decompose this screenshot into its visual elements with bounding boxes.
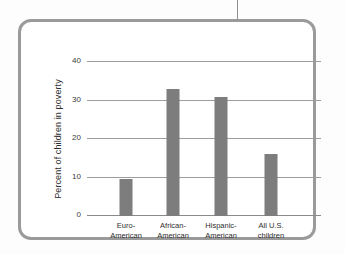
chart-frame: Percent of children in poverty 40 30 20 … [18,19,316,240]
x-tick-label-line: Euro- [110,221,142,231]
y-tick-label-30: 30 [72,96,81,104]
x-tick-label-line: American [110,231,142,241]
gridline-40: 40 [87,61,321,62]
x-tick-label-line: American [205,231,237,241]
y-axis-title: Percent of children in poverty [51,62,65,216]
gridline-10: 10 [87,177,321,178]
plot-area: 40 30 20 10 0 Euro-American African-Amer… [87,62,321,216]
y-tick-label-0: 0 [77,211,81,219]
x-tick-label-euro-american: Euro-American [110,221,142,240]
bar-all-us-children[interactable] [265,154,278,216]
y-tick-label-20: 20 [72,134,81,142]
x-tick-label-line: African- [157,221,189,231]
bar-african-american[interactable] [167,89,180,216]
y-tick-label-40: 40 [72,57,81,65]
x-tick-label-line: All U.S. [258,221,284,231]
x-tick-label-hispanic-american: Hispanic-American [205,221,237,240]
y-tick-label-10: 10 [72,173,81,181]
bar-hispanic-american[interactable] [215,97,228,216]
x-tick-label-all-us-children: All U.S.children [258,221,284,240]
x-tick-label-african-american: African-American [157,221,189,240]
x-tick-label-line: American [157,231,189,241]
x-tick-label-line: children [258,231,284,241]
bar-euro-american[interactable] [120,179,133,216]
gridline-20: 20 [87,138,321,139]
page-canvas: Percent of children in poverty 40 30 20 … [0,0,345,254]
gridline-30: 30 [87,100,321,101]
x-tick-label-line: Hispanic- [205,221,237,231]
